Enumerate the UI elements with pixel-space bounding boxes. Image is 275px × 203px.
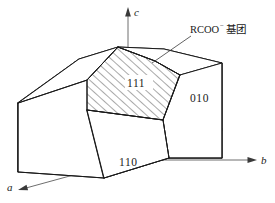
crystal-diagram-canvas: c b a [0,0,275,203]
rcoo-callout-text: RCOO [190,24,220,35]
face-111-label: 111 [127,77,145,89]
rcoo-callout-chinese: 基团 [226,23,246,35]
crystal-morphology-figure: c b a [0,0,275,203]
face-010-label: 010 [190,92,209,104]
axis-c-label: c [134,6,139,18]
axis-a-arrowhead [18,185,28,191]
axis-b-arrowhead [248,157,258,163]
axis-b-label: b [261,154,267,166]
axis-a-label: a [7,181,13,193]
rcoo-callout-charge: − [220,22,224,30]
face-110-label: 110 [119,156,138,168]
axis-c-arrowhead [125,7,131,17]
